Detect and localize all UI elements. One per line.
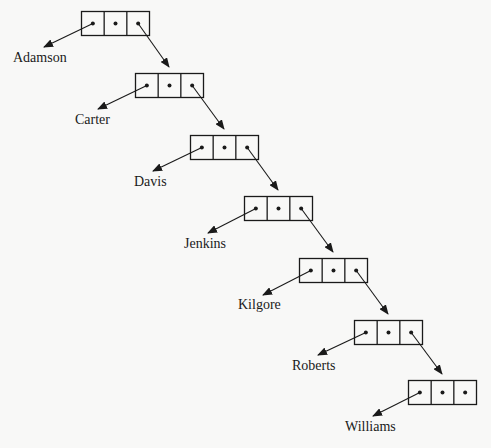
field-dot [114,22,118,26]
field-dot [441,391,445,395]
field-dot [277,207,281,211]
diagram-layer: AdamsonCarterDavisJenkinsKilgoreRobertsW… [13,12,477,435]
data-pointer-arrow [318,333,366,356]
field-dot [387,331,391,335]
list-node: Carter [75,74,224,130]
list-node: Davis [134,136,278,191]
field-dot [168,84,172,88]
node-label: Kilgore [238,297,281,312]
node-label: Roberts [292,358,336,373]
list-node: Adamson [13,12,169,68]
list-node: Williams [345,381,477,435]
linked-list-diagram: AdamsonCarterDavisJenkinsKilgoreRobertsW… [0,0,491,448]
field-dot [332,269,336,273]
node-label: Williams [345,419,396,434]
next-pointer-arrow [192,86,224,130]
node-label: Carter [75,112,110,127]
next-pointer-arrow [356,271,388,315]
field-dot [223,146,227,150]
next-pointer-arrow [247,148,278,191]
node-label: Davis [134,174,167,189]
next-pointer-arrow [138,24,169,68]
list-node: Kilgore [238,259,388,315]
list-node: Jenkins [184,197,333,253]
list-node: Roberts [292,321,442,375]
node-label: Adamson [13,50,67,65]
next-pointer-arrow [301,209,333,253]
node-label: Jenkins [184,236,226,251]
next-pointer-arrow [411,333,442,375]
next-pointer-dot [463,391,467,395]
